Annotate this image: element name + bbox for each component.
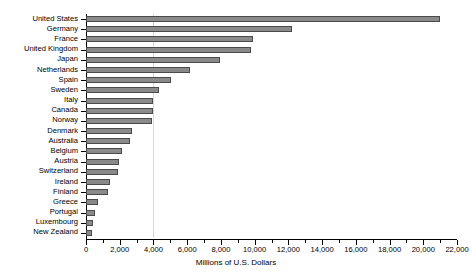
x-axis-minor-tick	[238, 240, 239, 243]
bar	[86, 16, 440, 22]
bar	[86, 159, 119, 165]
y-axis-tick-label: Switzerland	[0, 167, 78, 175]
bar	[86, 128, 132, 134]
bar	[86, 189, 108, 195]
bar	[86, 47, 251, 53]
y-axis-tick-label: Finland	[0, 188, 78, 196]
x-axis-minor-tick	[305, 240, 306, 243]
x-axis-minor-tick	[373, 240, 374, 243]
y-axis-tick-mark	[81, 39, 86, 40]
bar	[86, 36, 253, 42]
y-axis-tick-mark	[81, 131, 86, 132]
y-axis-tick-mark	[81, 182, 86, 183]
bar	[86, 108, 153, 114]
y-axis-tick-label: Luxembourg	[0, 218, 78, 226]
x-axis-minor-tick	[103, 240, 104, 243]
y-axis-tick-label: Norway	[0, 116, 78, 124]
y-axis-tick-label: Belgium	[0, 147, 78, 155]
y-axis-tick-mark	[81, 233, 86, 234]
bar	[86, 148, 122, 154]
y-axis-tick-mark	[81, 80, 86, 81]
y-axis-tick-label: Germany	[0, 25, 78, 33]
bar	[86, 87, 159, 93]
y-axis-tick-mark	[81, 151, 86, 152]
bar-chart: United StatesGermanyFranceUnited Kingdom…	[0, 0, 472, 277]
y-axis-tick-mark	[81, 60, 86, 61]
y-axis-tick-mark	[81, 50, 86, 51]
x-axis-tick-label: 18,000	[378, 245, 401, 254]
y-axis-tick-mark	[81, 223, 86, 224]
y-axis-tick-label: Greece	[0, 198, 78, 206]
y-axis-tick-label: Canada	[0, 106, 78, 114]
y-axis-tick-label: United States	[0, 15, 78, 23]
y-axis-tick-mark	[81, 111, 86, 112]
bar	[86, 230, 92, 236]
bar	[86, 210, 95, 216]
bar	[86, 220, 93, 226]
y-axis-tick-label: Spain	[0, 76, 78, 84]
x-axis-tick-label: 4,000	[144, 245, 163, 254]
x-axis-minor-tick	[440, 240, 441, 243]
x-axis-tick-label: 0	[84, 245, 88, 254]
x-axis-tick-label: 16,000	[344, 245, 367, 254]
x-axis-tick-label: 14,000	[310, 245, 333, 254]
y-axis-tick-mark	[81, 29, 86, 30]
y-axis-tick-label: Ireland	[0, 178, 78, 186]
x-axis-tick-label: 6,000	[178, 245, 197, 254]
y-axis-tick-mark	[81, 192, 86, 193]
y-axis-tick-mark	[81, 202, 86, 203]
bar	[86, 67, 190, 73]
x-axis-tick-label: 12,000	[277, 245, 300, 254]
bar	[86, 199, 98, 205]
y-axis-tick-mark	[81, 141, 86, 142]
bar	[86, 26, 292, 32]
y-axis-tick-label: Netherlands	[0, 66, 78, 74]
y-axis-tick-label: France	[0, 35, 78, 43]
y-axis-tick-mark	[81, 121, 86, 122]
x-axis-tick-label: 22,000	[445, 245, 468, 254]
y-axis-tick-label: Denmark	[0, 127, 78, 135]
bar	[86, 98, 153, 104]
x-axis-title: Millions of U.S. Dollars	[0, 258, 472, 267]
x-axis-tick-label: 2,000	[110, 245, 129, 254]
bar	[86, 179, 110, 185]
y-axis-tick-mark	[81, 101, 86, 102]
bar	[86, 169, 118, 175]
y-axis-category-labels: United StatesGermanyFranceUnited Kingdom…	[0, 14, 78, 238]
x-axis-minor-tick	[272, 240, 273, 243]
y-axis-tick-label: New Zealand	[0, 228, 78, 236]
x-axis-tick-label: 20,000	[412, 245, 435, 254]
y-axis-tick-label: Austria	[0, 157, 78, 165]
y-axis-tick-label: Italy	[0, 96, 78, 104]
bar	[86, 138, 130, 144]
y-axis-tick-label: Japan	[0, 55, 78, 63]
x-axis-minor-tick	[137, 240, 138, 243]
x-axis-tick-label: 10,000	[243, 245, 266, 254]
y-axis-tick-mark	[81, 162, 86, 163]
y-axis-tick-mark	[81, 90, 86, 91]
y-axis-tick-mark	[81, 70, 86, 71]
x-axis-minor-tick	[204, 240, 205, 243]
y-axis-tick-label: Portugal	[0, 208, 78, 216]
y-axis-tick-label: United Kingdom	[0, 45, 78, 53]
x-axis-minor-tick	[406, 240, 407, 243]
x-axis-minor-tick	[170, 240, 171, 243]
y-axis-tick-mark	[81, 19, 86, 20]
plot-area	[86, 14, 457, 238]
y-axis-tick-label: Australia	[0, 137, 78, 145]
y-axis-tick-label: Sweden	[0, 86, 78, 94]
x-axis-tick-label: 8,000	[211, 245, 230, 254]
bar	[86, 77, 171, 83]
bar	[86, 118, 152, 124]
y-axis-tick-mark	[81, 213, 86, 214]
x-axis-minor-tick	[339, 240, 340, 243]
y-axis-tick-mark	[81, 172, 86, 173]
bar	[86, 57, 220, 63]
